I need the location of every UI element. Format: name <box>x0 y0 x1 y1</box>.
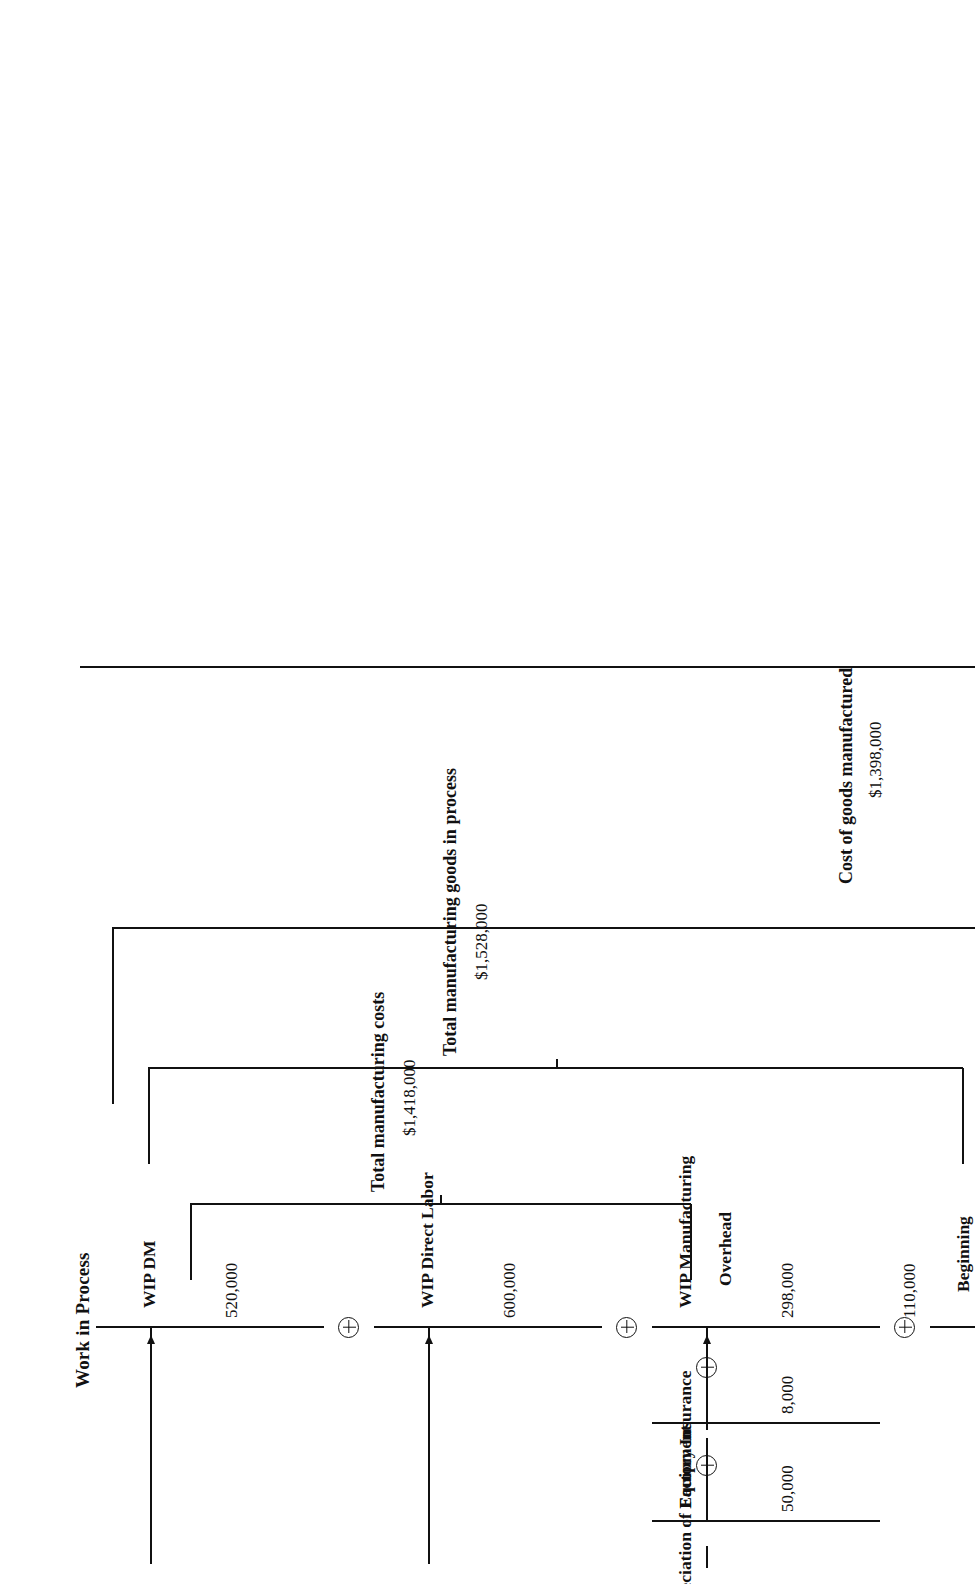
t-account-stem <box>652 1326 880 1328</box>
t-account-crossbar <box>706 1340 708 1424</box>
t-account-stem <box>374 1326 602 1328</box>
brace-tmc-tip <box>440 1195 442 1205</box>
account-amount-factory-insurance: 8,000 <box>778 1376 798 1414</box>
operator-plus-dm-dl <box>338 1317 359 1338</box>
t-account-stem <box>96 1326 324 1328</box>
brace-tmgip-arm-bottom <box>962 1068 964 1164</box>
connector-insurance-left <box>706 1546 708 1568</box>
account-amount-beginning-wip: 110,000 <box>900 1263 920 1318</box>
account-name-beginning-wip-line1: Beginning <box>954 1216 974 1292</box>
account-amount-wip-manufacturing-overhead: 298,000 <box>778 1263 798 1318</box>
total-goods-in-process-amount: $1,528,000 <box>472 904 492 981</box>
brace-tmc-arm-bottom <box>690 1204 692 1280</box>
total-manufacturing-costs-amount: $1,418,000 <box>400 1060 420 1137</box>
t-account-stem <box>930 1326 975 1328</box>
arrow-into-wip-direct-labor <box>428 1336 430 1564</box>
account-amount-wip-direct-labor: 600,000 <box>500 1263 520 1318</box>
brace-cogm-spine <box>112 928 975 930</box>
cost-of-goods-manufactured-amount: $1,398,000 <box>866 722 886 799</box>
account-amount-wip-dm: 520,000 <box>222 1263 242 1318</box>
arrow-into-wip-dm <box>150 1336 152 1564</box>
operator-plus-moh-beginning <box>894 1317 915 1338</box>
account-amount-depreciation-equipment: 50,000 <box>778 1465 798 1512</box>
brace-tmgip-tip <box>556 1059 558 1069</box>
total-manufacturing-costs-label: Total manufacturing costs <box>368 992 389 1192</box>
brace-cogm-arm-top <box>112 928 114 1104</box>
operator-plus-insurance-leading <box>696 1357 717 1378</box>
account-name-wip-manufacturing-overhead-line2: Overhead <box>716 1212 736 1286</box>
figure-title: Work in Process <box>72 1252 94 1388</box>
diagram-canvas: Work in Process WIP DM 520,000 WIP Direc… <box>0 0 975 1584</box>
operator-plus-insurance-depreciation <box>696 1455 717 1476</box>
account-name-depreciation-equipment: Depreciation of Equipment <box>676 1425 696 1584</box>
brace-tmc-arm-top <box>190 1204 192 1280</box>
operator-plus-dl-moh <box>616 1317 637 1338</box>
account-name-wip-dm: WIP DM <box>140 1240 160 1308</box>
account-name-wip-direct-labor: WIP Direct Labor <box>418 1172 438 1308</box>
cost-of-goods-manufactured-label: Cost of goods manufactured <box>836 668 857 884</box>
page-edge-rule <box>80 667 975 669</box>
total-goods-in-process-label: Total manufacturing goods in process <box>440 768 461 1056</box>
t-account-crossbar <box>706 1438 708 1522</box>
brace-tmgip-arm-top <box>148 1068 150 1164</box>
account-name-wip-manufacturing-overhead-line1: WIP Manufacturing <box>676 1156 696 1308</box>
